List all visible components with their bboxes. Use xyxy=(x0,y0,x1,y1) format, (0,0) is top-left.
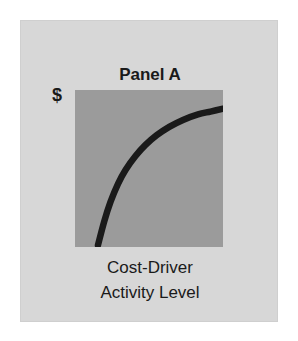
x-axis-label: Cost-Driver Activity Level xyxy=(21,255,279,305)
x-axis-label-line-2: Activity Level xyxy=(21,280,279,305)
figure-root: Panel A $ Cost-Driver Activity Level xyxy=(0,0,298,341)
plot-area xyxy=(75,90,223,247)
y-axis-label: $ xyxy=(45,85,69,105)
cost-curve-line xyxy=(98,109,223,245)
x-axis-label-line-1: Cost-Driver xyxy=(21,255,279,280)
cost-curve-chart xyxy=(75,90,223,247)
panel-card: Panel A $ Cost-Driver Activity Level xyxy=(20,20,278,322)
page-title: Panel A xyxy=(21,65,279,85)
